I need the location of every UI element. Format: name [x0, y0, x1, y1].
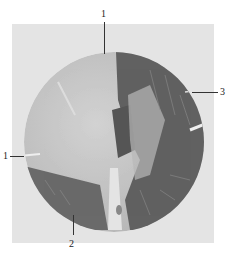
label-right: 3: [220, 87, 225, 97]
label-top: 1: [101, 9, 106, 19]
leader-line-bottom: [73, 215, 74, 235]
leader-line-top: [104, 22, 105, 54]
spinal-cord-section-image: [0, 0, 232, 258]
leader-line-left: [10, 156, 24, 157]
leader-line-right: [192, 92, 218, 93]
label-left: 1: [3, 151, 8, 161]
label-bottom: 2: [69, 239, 74, 249]
